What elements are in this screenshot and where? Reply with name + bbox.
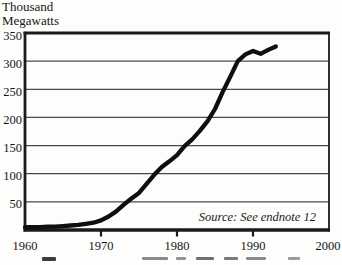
- x-tick-label-1980: 1980: [165, 239, 190, 253]
- caption-fragment: [224, 257, 238, 260]
- x-tick-label-1970: 1970: [89, 239, 114, 253]
- chart-figure: Thousand Megawatts 501001502002503003501…: [0, 0, 342, 265]
- y-tick-label-250: 250: [3, 85, 22, 99]
- y-tick-label-150: 150: [3, 141, 22, 155]
- cropped-caption-strip: [0, 256, 342, 265]
- x-tick-label-2000: 2000: [316, 239, 341, 253]
- caption-fragment: [246, 257, 266, 260]
- y-tick-label-200: 200: [3, 113, 22, 127]
- line-chart: 5010015020025030035019601970198019902000: [0, 0, 342, 265]
- x-tick-label-1960: 1960: [13, 239, 38, 253]
- y-tick-label-100: 100: [3, 169, 22, 183]
- y-tick-label-300: 300: [3, 57, 22, 71]
- caption-fragment: [176, 257, 186, 260]
- x-tick-label-1990: 1990: [241, 239, 266, 253]
- y-tick-label-350: 350: [3, 29, 22, 43]
- caption-fragment: [288, 257, 300, 260]
- caption-fragment: [196, 257, 214, 260]
- caption-fragment: [42, 257, 56, 261]
- capacity-line-series: [25, 47, 276, 228]
- caption-fragment: [142, 257, 168, 260]
- source-note: Source: See endnote 12: [199, 210, 316, 225]
- y-tick-label-50: 50: [10, 197, 23, 211]
